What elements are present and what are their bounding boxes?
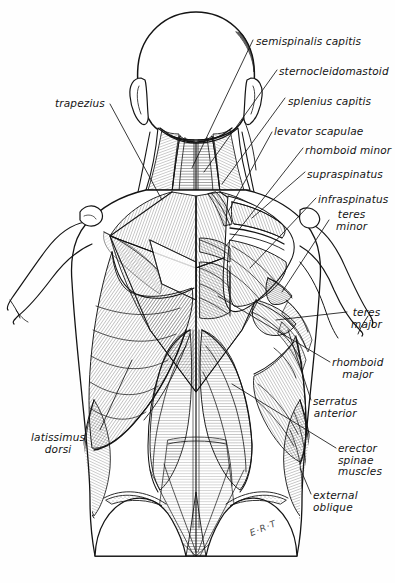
label-serratus-anterior: serratus anterior [313,396,357,419]
label-rhomboid-minor: rhomboid minor [305,145,391,157]
label-supraspinatus: supraspinatus [307,169,383,181]
label-teres-minor: teres minor [336,209,367,232]
label-sternocleidomastoid: sternocleidomastoid [279,66,389,78]
label-latissimus-dorsi: latissimus dorsi [31,432,85,455]
label-external-oblique: external oblique [313,490,358,513]
left-ear [130,78,148,125]
label-teres-major: teres major [351,307,382,330]
muscle-hatching [82,192,312,556]
label-infraspinatus: infraspinatus [318,194,388,206]
label-semispinalis-capitis: semispinalis capitis [256,36,361,48]
label-levator-scapulae: levator scapulae [274,126,363,138]
illustration-ink [7,12,373,556]
label-erector-spinae-muscles: erector spinae muscles [338,443,382,478]
right-ear [244,78,262,125]
label-trapezius: trapezius [55,98,105,110]
label-splenius-capitis: splenius capitis [288,96,371,108]
head-outline [138,12,255,140]
label-rhomboid-major: rhomboid major [332,357,384,380]
anatomy-figure: semispinalis capitis sternocleidomastoid… [0,0,395,583]
